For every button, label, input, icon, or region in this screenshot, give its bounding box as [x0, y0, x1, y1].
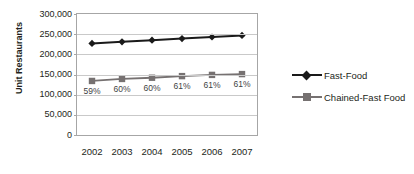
plot-area: 59%60%60%61%61%61% — [76, 13, 258, 136]
y-axis-tickmark — [74, 115, 77, 116]
series-line-1 — [92, 35, 242, 43]
gridline — [77, 75, 257, 76]
y-axis-tick-label: 250,000 — [26, 30, 72, 39]
y-axis-tickmark — [74, 95, 77, 96]
y-axis-tick-label: 100,000 — [26, 90, 72, 99]
y-axis-tickmark — [74, 54, 77, 55]
y-axis-tick-label: 300,000 — [26, 10, 72, 19]
data-point-marker — [88, 40, 95, 47]
data-label-percent: 60% — [143, 84, 160, 93]
legend-label: Fast-Food — [322, 70, 367, 81]
x-axis-tick-label: 2007 — [231, 146, 252, 157]
y-axis-tick-label: 200,000 — [26, 50, 72, 59]
x-axis-tick-label: 2006 — [201, 146, 222, 157]
data-label-percent: 60% — [113, 85, 130, 94]
data-point-marker — [119, 76, 125, 82]
legend-item-2[interactable]: Chained-Fast Food — [292, 86, 414, 108]
chart-legend: Fast-FoodChained-Fast Food — [292, 64, 414, 108]
x-axis-tick-labels: 200220032004200520062007 — [0, 146, 414, 162]
y-axis-tickmark — [74, 75, 77, 76]
x-axis-tick-label: 2002 — [81, 146, 102, 157]
gridline — [77, 95, 257, 96]
data-point-marker — [238, 32, 245, 39]
legend-item-1[interactable]: Fast-Food — [292, 64, 414, 86]
data-label-percent: 59% — [83, 87, 100, 96]
legend-key-diamond-icon — [292, 69, 322, 81]
y-axis-tickmark — [74, 135, 77, 136]
gridline — [77, 115, 257, 116]
gridline — [77, 54, 257, 55]
y-axis-tickmark — [74, 14, 77, 15]
x-axis-tick-label: 2003 — [111, 146, 132, 157]
data-label-percent: 61% — [233, 80, 250, 89]
y-axis-tickmark — [74, 34, 77, 35]
data-point-marker — [178, 35, 185, 42]
data-label-percent: 61% — [173, 82, 190, 91]
legend-label: Chained-Fast Food — [322, 92, 405, 103]
data-point-marker — [89, 78, 95, 84]
y-axis-title: Unit Restaurants — [14, 3, 24, 113]
y-axis-tick-label: 0 — [26, 131, 72, 140]
y-axis-tick-label: 150,000 — [26, 70, 72, 79]
chart-container: Unit Restaurants 300,000250,000200,00015… — [0, 0, 414, 174]
y-axis-tick-label: 50,000 — [26, 110, 72, 119]
data-point-marker — [118, 38, 125, 45]
data-label-percent: 61% — [203, 81, 220, 90]
gridline — [77, 34, 257, 35]
data-point-marker — [148, 37, 155, 44]
x-axis-tick-label: 2004 — [141, 146, 162, 157]
legend-key-square-icon — [292, 91, 322, 103]
x-axis-tick-label: 2005 — [171, 146, 192, 157]
